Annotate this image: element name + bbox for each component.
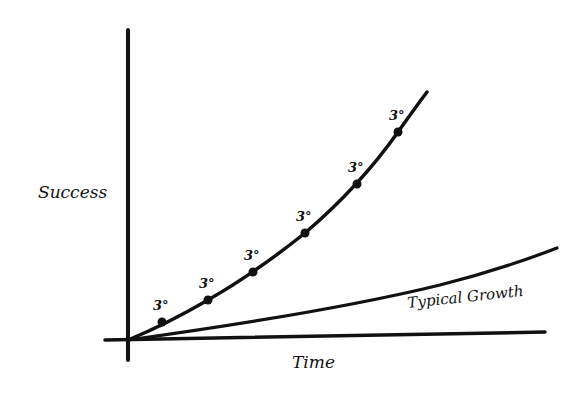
growth-marker-dot	[301, 229, 310, 238]
x-axis-label: Time	[292, 352, 335, 372]
success-vs-time-diagram: 3°3°3°3°3°3° Success Time Typical Growth	[0, 0, 585, 403]
growth-marker-label: 3°	[199, 276, 215, 291]
growth-marker-label: 3°	[348, 160, 364, 175]
growth-marker-dot	[249, 268, 258, 277]
growth-marker-labels: 3°3°3°3°3°3°	[153, 108, 405, 313]
growth-marker-dot	[204, 296, 213, 305]
growth-marker-dot	[394, 128, 403, 137]
y-axis-label: Success	[38, 182, 107, 202]
growth-marker-label: 3°	[153, 298, 169, 313]
growth-marker-dot	[353, 180, 362, 189]
growth-marker-label: 3°	[389, 108, 405, 123]
typical-growth-label: Typical Growth	[407, 282, 525, 312]
growth-marker-dot	[158, 318, 167, 327]
compounding-growth-curve	[128, 92, 427, 340]
growth-marker-label: 3°	[244, 248, 260, 263]
growth-markers	[158, 128, 403, 327]
growth-marker-label: 3°	[296, 209, 312, 224]
